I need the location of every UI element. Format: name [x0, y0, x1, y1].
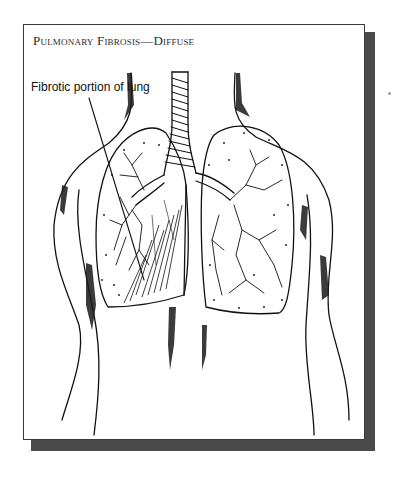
- fibrotic-region-shading: [124, 200, 182, 303]
- lung-stippling: [101, 132, 289, 309]
- left-neck-shoulder-outline: [54, 73, 132, 420]
- right-inner-arm-line: [306, 195, 314, 435]
- bronchial-tree-left: [110, 153, 149, 270]
- right-neck-shoulder-outline: [234, 73, 349, 420]
- scan-speck: [388, 92, 391, 95]
- right-lung-outline: [201, 126, 294, 313]
- annotation-leader-line: [89, 98, 144, 280]
- annotation-label: Fibrotic portion of lung: [31, 80, 150, 94]
- trachea-rings: [165, 78, 195, 167]
- figure-frame: Pulmonary Fibrosis—Diffuse: [23, 24, 365, 440]
- body-shading: [60, 73, 329, 370]
- bronchi-outline: [132, 173, 234, 205]
- bronchial-tree-right: [212, 150, 282, 295]
